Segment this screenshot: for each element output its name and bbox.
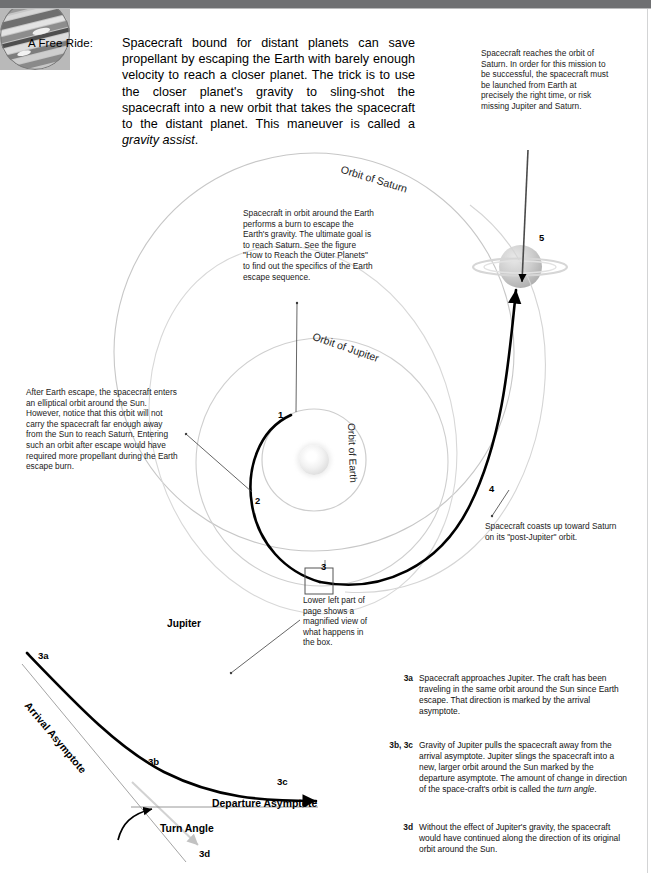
marker-2: 2 [255, 495, 260, 506]
saturn-graphic [499, 245, 542, 288]
note-3a-tag: 3a [379, 673, 413, 684]
note-3bc-term-turn-angle: turn angle [557, 784, 594, 794]
intro-text-part2: . [195, 133, 199, 147]
intro-paragraph: Spacecraft bound for distant planets can… [122, 35, 415, 148]
note-3d-tag: 3d [379, 822, 413, 833]
original-direction-arrow [132, 782, 198, 845]
flyby-trajectory-path [27, 653, 316, 801]
orbit-label-jupiter: Orbit of Jupiter [311, 330, 381, 364]
note-3d: 3d Without the effect of Jupiter's gravi… [379, 822, 629, 855]
magnified-label-3c: 3c [277, 776, 288, 787]
magnified-label-3d: 3d [199, 848, 210, 859]
callout-earth-escape: Spacecraft in orbit around the Earth per… [243, 208, 375, 282]
turn-angle-label: Turn Angle [160, 823, 214, 834]
orbit-label-earth: Orbit of Earth [346, 423, 359, 483]
orbit-of-saturn-path [88, 127, 539, 577]
turn-angle-arc [118, 809, 152, 840]
magnified-label-3a: 3a [38, 650, 49, 661]
callout-magnified-box: Lower left part of page shows a magnifie… [303, 595, 375, 648]
diagram-page: A Free Ride: Spacecraft bound for distan… [0, 0, 651, 873]
intro-label: A Free Ride: [28, 37, 93, 49]
jupiter-closeup-graphic [0, 0, 70, 70]
header-hairline [0, 8, 651, 9]
magnified-label-3b: 3b [148, 756, 159, 767]
intro-term-gravity-assist: gravity assist [122, 133, 195, 147]
note-3bc: 3b, 3c Gravity of Jupiter pulls the spac… [379, 740, 629, 795]
callout-saturn-arrival: Spacecraft reaches the orbit of Saturn. … [481, 48, 609, 112]
note-3bc-tag: 3b, 3c [379, 740, 413, 751]
note-3d-text: Without the effect of Jupiter's gravity,… [419, 822, 627, 855]
jupiter-label: Jupiter [167, 618, 201, 629]
orbit-label-saturn: Orbit of Saturn [339, 163, 408, 195]
marker-5: 5 [539, 232, 544, 243]
note-3bc-text: Gravity of Jupiter pulls the spacecraft … [419, 740, 627, 795]
note-3bc-text-part2: . [594, 784, 596, 794]
page-header-bar [0, 0, 651, 8]
spacecraft-trajectory-path [251, 290, 516, 585]
arrival-asymptote-label: Arrival Asymptote [23, 700, 89, 775]
marker-1: 1 [278, 409, 283, 420]
departure-asymptote-label: Departure Asymptote [212, 798, 317, 809]
callout-elliptical-orbit: After Earth escape, the spacecraft enter… [26, 387, 181, 472]
intro-text-part1: Spacecraft bound for distant planets can… [122, 36, 415, 131]
marker-3: 3 [321, 561, 326, 572]
marker-4: 4 [489, 483, 494, 494]
note-3a-text: Spacecraft approaches Jupiter. The craft… [419, 673, 627, 717]
callout-post-jupiter-coast: Spacecraft coasts up toward Saturn on it… [485, 521, 620, 542]
note-3a: 3a Spacecraft approaches Jupiter. The cr… [379, 673, 629, 717]
magnification-box [305, 568, 333, 594]
right-margin-rule [647, 9, 648, 873]
sun-graphic [299, 445, 329, 475]
